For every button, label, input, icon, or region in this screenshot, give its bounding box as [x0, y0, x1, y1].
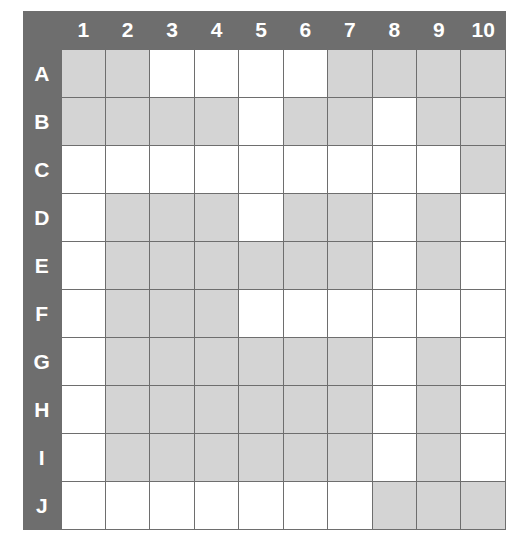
grid-cell-F1[interactable] — [61, 290, 105, 338]
grid-cell-D5[interactable] — [239, 194, 283, 242]
grid-cell-G3[interactable] — [150, 338, 194, 386]
grid-cell-A3[interactable] — [150, 50, 194, 98]
grid-cell-E8[interactable] — [372, 242, 416, 290]
grid-cell-F6[interactable] — [283, 290, 327, 338]
grid-cell-G9[interactable] — [417, 338, 461, 386]
grid-cell-C3[interactable] — [150, 146, 194, 194]
grid-cell-D2[interactable] — [105, 194, 149, 242]
grid-cell-C9[interactable] — [417, 146, 461, 194]
grid-cell-I4[interactable] — [194, 434, 238, 482]
grid-cell-C10[interactable] — [461, 146, 506, 194]
grid-cell-F2[interactable] — [105, 290, 149, 338]
grid-cell-E2[interactable] — [105, 242, 149, 290]
grid-cell-C7[interactable] — [328, 146, 372, 194]
grid-cell-C1[interactable] — [61, 146, 105, 194]
grid-cell-C2[interactable] — [105, 146, 149, 194]
grid-cell-G7[interactable] — [328, 338, 372, 386]
grid-cell-A7[interactable] — [328, 50, 372, 98]
grid-cell-D3[interactable] — [150, 194, 194, 242]
grid-cell-F10[interactable] — [461, 290, 506, 338]
grid-cell-B6[interactable] — [283, 98, 327, 146]
grid-cell-G4[interactable] — [194, 338, 238, 386]
grid-cell-J4[interactable] — [194, 482, 238, 530]
grid-cell-G1[interactable] — [61, 338, 105, 386]
grid-cell-B7[interactable] — [328, 98, 372, 146]
grid-cell-B8[interactable] — [372, 98, 416, 146]
grid-cell-E5[interactable] — [239, 242, 283, 290]
grid-cell-I8[interactable] — [372, 434, 416, 482]
grid-cell-A2[interactable] — [105, 50, 149, 98]
grid-cell-C6[interactable] — [283, 146, 327, 194]
grid-cell-G2[interactable] — [105, 338, 149, 386]
grid-cell-G10[interactable] — [461, 338, 506, 386]
grid-cell-D6[interactable] — [283, 194, 327, 242]
grid-cell-J9[interactable] — [417, 482, 461, 530]
grid-cell-E10[interactable] — [461, 242, 506, 290]
grid-cell-C4[interactable] — [194, 146, 238, 194]
grid-cell-F4[interactable] — [194, 290, 238, 338]
grid-cell-J3[interactable] — [150, 482, 194, 530]
grid-cell-B1[interactable] — [61, 98, 105, 146]
grid-cell-G8[interactable] — [372, 338, 416, 386]
grid-cell-D1[interactable] — [61, 194, 105, 242]
grid-cell-I6[interactable] — [283, 434, 327, 482]
grid-cell-E4[interactable] — [194, 242, 238, 290]
grid-cell-F5[interactable] — [239, 290, 283, 338]
grid-cell-D7[interactable] — [328, 194, 372, 242]
grid-cell-H2[interactable] — [105, 386, 149, 434]
grid-cell-E9[interactable] — [417, 242, 461, 290]
grid-cell-I10[interactable] — [461, 434, 506, 482]
grid-cell-J10[interactable] — [461, 482, 506, 530]
grid-cell-A10[interactable] — [461, 50, 506, 98]
grid-cell-D4[interactable] — [194, 194, 238, 242]
grid-cell-A8[interactable] — [372, 50, 416, 98]
grid-cell-D9[interactable] — [417, 194, 461, 242]
grid-cell-H3[interactable] — [150, 386, 194, 434]
grid-cell-B5[interactable] — [239, 98, 283, 146]
grid-cell-H1[interactable] — [61, 386, 105, 434]
grid-cell-C8[interactable] — [372, 146, 416, 194]
grid-cell-A4[interactable] — [194, 50, 238, 98]
grid-cell-J1[interactable] — [61, 482, 105, 530]
grid-cell-J7[interactable] — [328, 482, 372, 530]
grid-cell-F7[interactable] — [328, 290, 372, 338]
grid-cell-J6[interactable] — [283, 482, 327, 530]
grid-cell-J2[interactable] — [105, 482, 149, 530]
grid-cell-F8[interactable] — [372, 290, 416, 338]
grid-cell-D10[interactable] — [461, 194, 506, 242]
grid-cell-I2[interactable] — [105, 434, 149, 482]
grid-cell-E7[interactable] — [328, 242, 372, 290]
grid-cell-I9[interactable] — [417, 434, 461, 482]
grid-cell-H7[interactable] — [328, 386, 372, 434]
grid-cell-I5[interactable] — [239, 434, 283, 482]
grid-cell-B9[interactable] — [417, 98, 461, 146]
grid-cell-H8[interactable] — [372, 386, 416, 434]
grid-cell-B4[interactable] — [194, 98, 238, 146]
grid-cell-E6[interactable] — [283, 242, 327, 290]
grid-cell-H9[interactable] — [417, 386, 461, 434]
grid-cell-B2[interactable] — [105, 98, 149, 146]
grid-cell-F9[interactable] — [417, 290, 461, 338]
grid-cell-H10[interactable] — [461, 386, 506, 434]
grid-cell-I1[interactable] — [61, 434, 105, 482]
grid-cell-C5[interactable] — [239, 146, 283, 194]
grid-cell-G5[interactable] — [239, 338, 283, 386]
grid-cell-A5[interactable] — [239, 50, 283, 98]
grid-cell-B10[interactable] — [461, 98, 506, 146]
grid-cell-F3[interactable] — [150, 290, 194, 338]
grid-cell-A1[interactable] — [61, 50, 105, 98]
grid-cell-I7[interactable] — [328, 434, 372, 482]
grid-cell-G6[interactable] — [283, 338, 327, 386]
grid-cell-J5[interactable] — [239, 482, 283, 530]
grid-cell-H4[interactable] — [194, 386, 238, 434]
grid-cell-A9[interactable] — [417, 50, 461, 98]
grid-cell-E3[interactable] — [150, 242, 194, 290]
grid-cell-H5[interactable] — [239, 386, 283, 434]
grid-cell-B3[interactable] — [150, 98, 194, 146]
grid-cell-I3[interactable] — [150, 434, 194, 482]
grid-cell-J8[interactable] — [372, 482, 416, 530]
grid-cell-H6[interactable] — [283, 386, 327, 434]
grid-cell-E1[interactable] — [61, 242, 105, 290]
grid-cell-D8[interactable] — [372, 194, 416, 242]
grid-cell-A6[interactable] — [283, 50, 327, 98]
